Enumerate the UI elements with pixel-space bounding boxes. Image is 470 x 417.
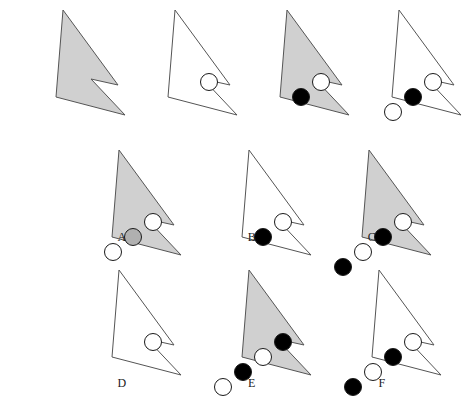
option-a-circle-3-white bbox=[105, 244, 122, 261]
option-c-circle-3-white bbox=[355, 244, 372, 261]
option-e-circle-1-black bbox=[275, 334, 292, 351]
stimulus-4-circle-1-white bbox=[425, 74, 442, 91]
option-label-a: A bbox=[112, 230, 132, 245]
stimulus-4-circle-3-white bbox=[385, 104, 402, 121]
stimulus-2-circle-1-white bbox=[201, 74, 218, 91]
stimulus-1-arrow-polygon bbox=[56, 10, 125, 115]
stimulus-3[interactable] bbox=[230, 2, 360, 142]
stimulus-3-circle-2-black bbox=[293, 89, 310, 106]
option-e-arrow-polygon bbox=[242, 270, 311, 375]
option-e-circle-4-white bbox=[215, 379, 232, 396]
option-label-b: B bbox=[242, 230, 262, 245]
option-c[interactable] bbox=[312, 142, 442, 282]
option-c-circle-1-white bbox=[395, 214, 412, 231]
stimulus-2-arrow-polygon bbox=[168, 10, 237, 115]
option-f-circle-2-black bbox=[385, 349, 402, 366]
option-label-d: D bbox=[112, 376, 132, 391]
option-label-c: C bbox=[362, 230, 382, 245]
stimulus-4-circle-2-black bbox=[405, 89, 422, 106]
stimulus-4[interactable] bbox=[342, 2, 470, 142]
option-f-circle-1-white bbox=[405, 334, 422, 351]
option-a[interactable] bbox=[62, 142, 192, 282]
option-b-circle-1-white bbox=[275, 214, 292, 231]
option-b[interactable] bbox=[192, 142, 322, 282]
stimulus-3-arrow-polygon bbox=[280, 10, 349, 115]
option-d-arrow-polygon bbox=[112, 270, 181, 375]
stimulus-2[interactable] bbox=[118, 2, 248, 142]
stimulus-3-circle-1-white bbox=[313, 74, 330, 91]
option-e-circle-2-white bbox=[255, 349, 272, 366]
option-f-circle-4-black bbox=[345, 379, 362, 396]
option-label-e: E bbox=[242, 376, 262, 391]
puzzle-canvas: ABCDEF bbox=[0, 0, 470, 417]
stimulus-4-arrow-polygon bbox=[392, 10, 461, 115]
option-f-arrow-polygon bbox=[372, 270, 441, 375]
stimulus-1[interactable] bbox=[6, 2, 136, 142]
option-d-circle-1-white bbox=[145, 334, 162, 351]
option-a-circle-1-white bbox=[145, 214, 162, 231]
option-label-f: F bbox=[372, 376, 392, 391]
